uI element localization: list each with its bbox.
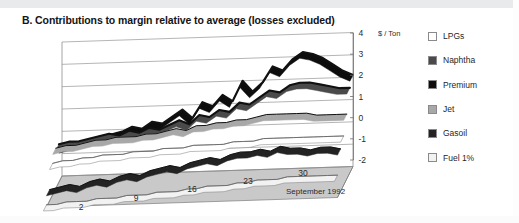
- y-axis-unit-label: $ / Ton: [378, 29, 400, 38]
- x-axis-tick-label: 9: [134, 193, 139, 203]
- legend-item[interactable]: Jet: [428, 103, 514, 115]
- gridline: [62, 33, 353, 43]
- chart-legend: LPGsNaphthaPremiumJetGasoilFuel 1%: [428, 30, 514, 176]
- x-axis-tick-label: 16: [187, 184, 197, 194]
- legend-item[interactable]: Premium: [428, 79, 514, 91]
- figure-panel: B. Contributions to margin relative to a…: [0, 0, 519, 223]
- legend-item[interactable]: Naphtha: [428, 54, 514, 66]
- x-axis-tick-label: 23: [243, 176, 253, 186]
- legend-swatch-icon: [428, 80, 437, 89]
- legend-item-label: LPGs: [443, 32, 464, 41]
- y-axis-tick-label: 4: [359, 28, 364, 38]
- y-axis-tick-label: 2: [359, 70, 364, 80]
- legend-swatch-icon: [428, 32, 437, 41]
- legend-item[interactable]: Fuel 1%: [428, 152, 514, 164]
- series-line: [62, 52, 353, 147]
- legend-swatch-icon: [428, 129, 437, 138]
- legend-swatch-icon: [428, 56, 437, 65]
- legend-swatch-icon: [428, 153, 437, 162]
- legend-item-label: Premium: [443, 81, 477, 90]
- legend-item[interactable]: LPGs: [428, 30, 514, 42]
- y-axis-tick-label: 1: [359, 92, 364, 102]
- legend-item-label: Fuel 1%: [443, 154, 474, 163]
- legend-item-label: Naphtha: [443, 56, 475, 65]
- x-axis-tick-label: 2: [79, 202, 84, 212]
- legend-swatch-icon: [428, 105, 437, 114]
- y-axis-tick-label: -1: [359, 134, 367, 144]
- y-axis-tick-label: -2: [359, 155, 367, 165]
- x-axis-tick-label: 30: [298, 168, 308, 178]
- legend-item-label: Jet: [443, 105, 454, 114]
- y-axis-tick-label: 0: [359, 113, 364, 123]
- y-axis-tick-label: 3: [359, 49, 364, 59]
- legend-item[interactable]: Gasoil: [428, 128, 514, 140]
- x-axis-title: September 1992: [286, 187, 346, 196]
- legend-item-label: Gasoil: [443, 129, 467, 138]
